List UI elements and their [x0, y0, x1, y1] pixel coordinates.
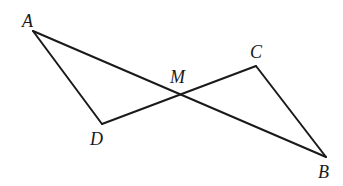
segments — [33, 31, 326, 157]
geometry-diagram: A B C D M — [0, 0, 343, 186]
label-b: B — [318, 162, 329, 182]
segment-cb — [256, 66, 326, 157]
label-d: D — [89, 129, 103, 149]
label-m: M — [169, 67, 186, 87]
label-a: A — [21, 11, 34, 31]
label-c: C — [250, 42, 263, 62]
